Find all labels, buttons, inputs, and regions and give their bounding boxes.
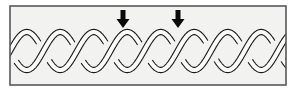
diagram-canvas bbox=[0, 0, 296, 91]
braid-diagram-figure bbox=[0, 0, 296, 91]
